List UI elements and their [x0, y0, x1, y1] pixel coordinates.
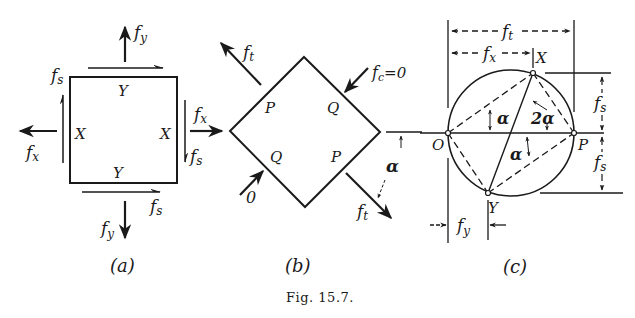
- alpha-upper-label: α: [497, 109, 509, 128]
- fx-right-label: fx: [192, 104, 207, 126]
- point-p-top: P: [264, 99, 276, 117]
- alpha-lower-label: α: [510, 145, 522, 164]
- fx-left-label: fx: [24, 142, 39, 164]
- point-p: [572, 131, 577, 136]
- fs-right-label: fs: [188, 146, 202, 168]
- zero-label: 0: [246, 188, 256, 207]
- fs-bottom-label: fs: [148, 196, 162, 218]
- fy-top-label: fy: [132, 22, 147, 45]
- face-y-top: Y: [118, 82, 130, 100]
- fy-dim-label: fy: [455, 215, 470, 238]
- label-x: X: [535, 49, 548, 67]
- chord-y-p: [488, 133, 574, 193]
- fc-arrow-icon: [345, 68, 368, 92]
- label-o: O: [432, 136, 444, 154]
- alpha-lower-arc-icon: [527, 137, 529, 156]
- fc-label: fc=0: [371, 63, 407, 84]
- label-y: Y: [488, 199, 500, 217]
- alpha-arc-arrow-lower-icon: [378, 180, 385, 198]
- figure-caption: Fig. 15.7.: [286, 290, 354, 305]
- point-p-bottom: P: [330, 148, 342, 166]
- panel-c-mohr-circle: ft fx X Y O P α 2α α: [420, 20, 623, 277]
- ft-top-label: ft: [241, 42, 254, 64]
- face-x-right: X: [159, 125, 172, 143]
- fy-bottom-label: fy: [99, 218, 114, 241]
- point-y: [486, 191, 491, 196]
- face-x-left: X: [74, 125, 87, 143]
- chord-o-y: [448, 133, 488, 193]
- point-q-bottom: Q: [270, 148, 282, 166]
- panel-c-label: (c): [503, 256, 527, 277]
- two-alpha-label: 2α: [530, 109, 554, 128]
- ft-lower-arrow-icon: [346, 173, 391, 218]
- fs-top-label: fs: [49, 65, 63, 87]
- panel-a-label: (a): [110, 255, 135, 276]
- ft-upper-arrow-icon: [221, 43, 261, 85]
- panel-a-stress-element: fy fs fx fx fs fs fy Y Y X X (a): [20, 22, 222, 276]
- ft-bottom-label: ft: [355, 201, 368, 223]
- panel-b-label: (b): [285, 255, 311, 276]
- panel-b-rotated-element: ft fc=0 0 ft α P Q Q P (b): [221, 42, 422, 276]
- alpha-label: α: [386, 156, 399, 176]
- label-p: P: [577, 136, 589, 154]
- point-q-top: Q: [327, 99, 339, 117]
- point-x: [531, 71, 536, 76]
- point-o: [446, 131, 451, 136]
- figure-canvas: fy fs fx fx fs fs fy Y Y X X (a) ft: [0, 0, 635, 318]
- face-y-bottom: Y: [113, 164, 125, 182]
